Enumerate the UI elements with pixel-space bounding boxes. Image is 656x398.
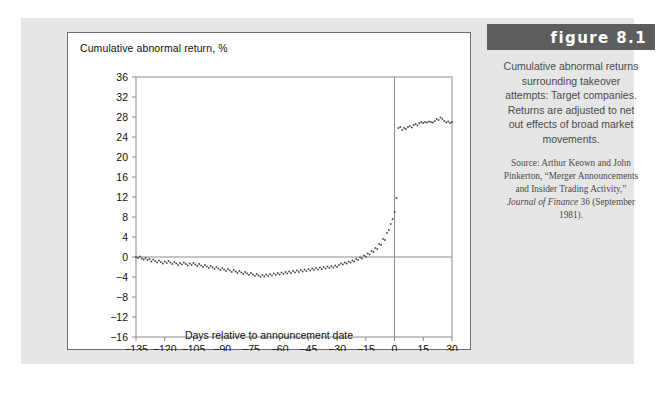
svg-text:−30: −30 <box>328 343 346 351</box>
svg-text:−15: −15 <box>357 343 375 351</box>
source-journal-title: Journal of Finance <box>507 197 578 207</box>
svg-text:−120: −120 <box>153 343 177 351</box>
svg-text:20: 20 <box>116 151 128 163</box>
svg-text:32: 32 <box>116 91 128 103</box>
chart-card: Cumulative abnormal return, % −16−12−8−4… <box>67 32 471 350</box>
x-axis-title: Days relative to announcement date <box>68 329 470 341</box>
figure-number-label: figure 8.1 <box>551 29 647 47</box>
svg-text:−4: −4 <box>116 271 128 283</box>
svg-text:4: 4 <box>122 231 128 243</box>
svg-text:−105: −105 <box>182 343 206 351</box>
svg-text:−45: −45 <box>299 343 317 351</box>
svg-text:24: 24 <box>116 131 128 143</box>
svg-text:0: 0 <box>392 343 398 351</box>
source-prefix: Source: Arthur Keown and John Pinkerton,… <box>504 158 638 194</box>
figure-source: Source: Arthur Keown and John Pinkerton,… <box>501 157 641 222</box>
svg-text:−75: −75 <box>242 343 260 351</box>
svg-text:−135: −135 <box>124 343 148 351</box>
svg-text:15: 15 <box>417 343 429 351</box>
svg-text:−60: −60 <box>271 343 289 351</box>
svg-text:0: 0 <box>122 251 128 263</box>
svg-text:16: 16 <box>116 171 128 183</box>
figure-caption: Cumulative abnormal returns surrounding … <box>499 59 643 146</box>
svg-text:36: 36 <box>116 71 128 83</box>
figure-number-banner: figure 8.1 <box>487 24 655 50</box>
svg-text:28: 28 <box>116 111 128 123</box>
plot-area: −16−12−8−404812162024283236−135−120−105−… <box>68 33 472 351</box>
figure-panel: Cumulative abnormal return, % −16−12−8−4… <box>21 18 634 364</box>
svg-text:−12: −12 <box>110 311 128 323</box>
svg-text:8: 8 <box>122 211 128 223</box>
svg-text:30: 30 <box>446 343 458 351</box>
scatter-plot-svg: −16−12−8−404812162024283236−135−120−105−… <box>68 33 472 351</box>
caption-column: figure 8.1 Cumulative abnormal returns s… <box>487 24 655 222</box>
figure-page: Cumulative abnormal return, % −16−12−8−4… <box>0 0 656 398</box>
svg-text:−90: −90 <box>213 343 231 351</box>
svg-text:12: 12 <box>116 191 128 203</box>
svg-text:−8: −8 <box>116 291 128 303</box>
